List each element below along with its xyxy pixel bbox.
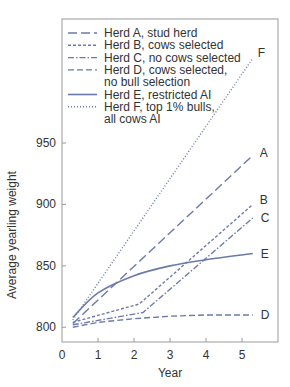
x-tick-label: 5: [239, 348, 246, 362]
series-line-a: [73, 155, 253, 323]
series-line-b: [73, 204, 253, 322]
y-axis-label: Average yearling weight: [5, 170, 19, 299]
end-label-a: A: [260, 146, 268, 160]
y-axis: 800850900950: [36, 136, 66, 334]
end-label-e: E: [261, 247, 269, 261]
series-end-labels: ABCDEF: [258, 46, 270, 322]
x-tick-label: 1: [95, 348, 102, 362]
x-tick-label: 3: [167, 348, 174, 362]
end-label-c: C: [261, 211, 270, 225]
end-label-f: F: [258, 46, 265, 60]
y-tick-label: 900: [36, 197, 56, 211]
x-tick-label: 2: [131, 348, 138, 362]
x-tick-label: 0: [59, 348, 66, 362]
chart: 012345 800850900950 ABCDEF Herd A, stud …: [0, 0, 290, 387]
x-axis-label: Year: [158, 366, 182, 380]
series-line-d: [73, 315, 253, 327]
end-label-d: D: [261, 308, 270, 322]
y-tick-label: 950: [36, 136, 56, 150]
legend-label-f: all cows AI: [104, 112, 161, 126]
series-line-e: [73, 254, 253, 318]
x-tick-label: 4: [203, 348, 210, 362]
y-tick-label: 850: [36, 259, 56, 273]
legend: Herd A, stud herdHerd B, cows selectedHe…: [68, 26, 241, 126]
series-line-c: [73, 218, 253, 325]
end-label-b: B: [260, 193, 268, 207]
y-tick-label: 800: [36, 320, 56, 334]
